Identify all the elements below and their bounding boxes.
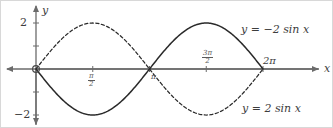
x-tick-label-3pi-over-2: 3π 2 [202,49,213,65]
x-tick-label-2pi: 2π [263,56,276,66]
x-axis-label: x [324,63,330,74]
x-tick-label-pi-over-2: π 2 [88,72,95,88]
x-tick-label-pi: π [151,73,156,81]
y-tick-label-2: 2 [20,17,27,28]
fraction-3pi-over-2: 3π 2 [202,50,213,66]
y-tick-label-minus2: −2 [14,109,30,120]
solid-curve-annotation: y = −2 sin x [241,24,309,35]
fraction-pi-over-2: π 2 [88,73,95,89]
y-axis-label: y [42,5,48,16]
dashed-curve-annotation: y = 2 sin x [242,103,301,114]
graph-figure: y x 2 −2 π 2 π 3π 2 2π y = −2 sin x y = … [0,0,333,128]
